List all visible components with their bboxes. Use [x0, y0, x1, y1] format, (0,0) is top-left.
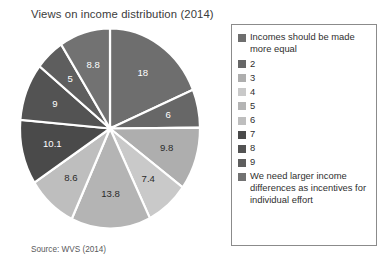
legend-item[interactable]: 9 [238, 156, 371, 168]
pie-slice-value-label: 6 [165, 109, 170, 120]
legend-color-swatch [238, 145, 246, 153]
legend-item-label: 3 [250, 72, 255, 84]
legend-item-label: We need larger income differences as inc… [250, 170, 371, 205]
legend-color-swatch [238, 173, 246, 181]
legend-color-swatch [238, 131, 246, 139]
chart-title: Views on income distribution (2014) [31, 8, 214, 20]
legend-item-label: 4 [250, 86, 255, 98]
legend-item-label: 8 [250, 142, 255, 154]
legend-color-swatch [238, 102, 246, 110]
legend-color-swatch [238, 60, 246, 68]
legend-color-swatch [238, 117, 246, 125]
pie-svg: 1869.87.413.88.610.1958.8 [18, 26, 204, 231]
legend-item-label: 6 [250, 114, 255, 126]
legend-item[interactable]: 7 [238, 128, 371, 140]
pie-slice-value-label: 13.8 [101, 188, 120, 199]
pie-slice-value-label: 8.6 [64, 172, 77, 183]
pie-slice-value-label: 7.4 [142, 173, 156, 184]
legend-item-label: 7 [250, 128, 255, 140]
legend-color-swatch [238, 159, 246, 167]
legend-item[interactable]: 8 [238, 142, 371, 154]
legend-item-label: 9 [250, 156, 255, 168]
legend-item[interactable]: 4 [238, 86, 371, 98]
legend-item[interactable]: Incomes should be made more equal [238, 31, 371, 54]
pie-slice-value-label: 5 [67, 73, 72, 84]
legend-item[interactable]: We need larger income differences as inc… [238, 170, 371, 205]
chart-legend: Incomes should be made more equal2345678… [231, 24, 377, 246]
pie-slice-value-label: 10.1 [43, 138, 62, 149]
legend-item[interactable]: 5 [238, 100, 371, 112]
legend-item-label: Incomes should be made more equal [250, 31, 371, 54]
legend-color-swatch [238, 74, 246, 82]
pie-slice-value-label: 9.8 [160, 142, 173, 153]
legend-color-swatch [238, 88, 246, 96]
legend-item[interactable]: 6 [238, 114, 371, 126]
legend-item[interactable]: 2 [238, 58, 371, 70]
pie-chart-figure: Views on income distribution (2014) 1869… [0, 0, 389, 271]
legend-item-label: 5 [250, 100, 255, 112]
pie-plot-area: 1869.87.413.88.610.1958.8 [18, 26, 204, 231]
pie-slice-value-label: 8.8 [87, 59, 100, 70]
source-note: Source: WVS (2014) [31, 245, 106, 254]
legend-item-label: 2 [250, 58, 255, 70]
legend-color-swatch [238, 34, 246, 42]
pie-slice-value-label: 18 [138, 67, 149, 78]
legend-item[interactable]: 3 [238, 72, 371, 84]
pie-slice-value-label: 9 [52, 98, 57, 109]
